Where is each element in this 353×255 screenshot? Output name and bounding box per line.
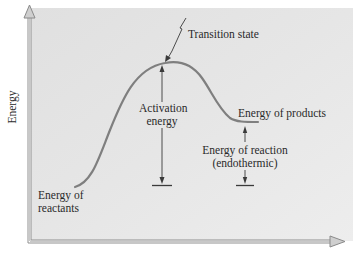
transition-state-label: Transition state — [188, 28, 259, 41]
energy-of-reactants-label: Energy of reactants — [38, 189, 83, 215]
activation-energy-label: Activation energy — [139, 102, 185, 128]
energy-of-reactants-label-line1: Energy of — [38, 189, 83, 202]
energy-diagram: Energy Transition state Activation energ… — [0, 0, 353, 255]
activation-energy-label-line1: Activation — [139, 102, 185, 115]
energy-of-reaction-label-line2: (endothermic) — [198, 157, 292, 170]
energy-of-products-label: Energy of products — [238, 107, 326, 120]
y-axis-label: Energy — [6, 89, 18, 125]
energy-of-reaction-label-line1: Energy of reaction — [198, 144, 292, 157]
activation-energy-label-line2: energy — [139, 115, 185, 128]
energy-of-reactants-label-line2: reactants — [38, 202, 83, 215]
energy-of-reaction-label: Energy of reaction (endothermic) — [198, 144, 292, 170]
